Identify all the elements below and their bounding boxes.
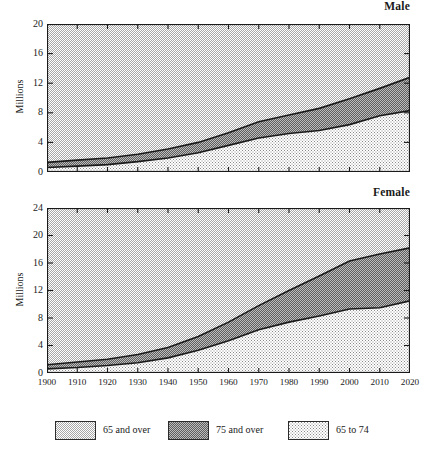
legend-swatch <box>168 421 209 440</box>
x-tick-label: 2010 <box>364 377 396 387</box>
legend-label: 75 and over <box>216 424 263 435</box>
y-tick-label: 4 <box>13 339 43 350</box>
chart-title-female: Female <box>373 186 410 198</box>
x-tick-label: 1960 <box>213 377 245 387</box>
y-axis-label-male: Millions <box>14 57 25 137</box>
chart-panel-male: Male Millions 048121620 <box>0 0 424 190</box>
y-tick-label: 8 <box>13 312 43 323</box>
chart-svg-male <box>47 24 410 172</box>
y-tick-label: 12 <box>13 77 43 88</box>
y-tick-label: 20 <box>13 18 43 29</box>
y-tick-label: 0 <box>13 166 43 177</box>
legend-label: 65 to 74 <box>336 424 369 435</box>
y-tick-label: 8 <box>13 106 43 117</box>
y-tick-label: 20 <box>13 229 43 240</box>
x-tick-label: 1920 <box>92 377 124 387</box>
x-tick-label: 1910 <box>61 377 93 387</box>
chart-title-male: Male <box>384 0 410 12</box>
y-tick-label: 24 <box>13 202 43 213</box>
y-tick-label: 4 <box>13 136 43 147</box>
x-tick-label: 1940 <box>152 377 184 387</box>
legend-label: 65 and over <box>103 424 150 435</box>
y-tick-label: 16 <box>13 257 43 268</box>
x-tick-label: 1980 <box>273 377 305 387</box>
chart-legend: 65 and over75 and over65 to 74 <box>0 409 424 459</box>
y-tick-label: 16 <box>13 47 43 58</box>
y-tick-label: 0 <box>13 367 43 378</box>
plot-area-female <box>47 208 410 373</box>
chart-panel-female: Female Millions 048121620241900191019201… <box>0 186 424 401</box>
plot-area-male <box>47 24 410 172</box>
x-tick-label: 1930 <box>122 377 154 387</box>
legend-swatch <box>55 421 96 440</box>
x-tick-label: 1970 <box>243 377 275 387</box>
x-tick-label: 2000 <box>334 377 366 387</box>
chart-svg-female <box>47 208 410 373</box>
y-tick-label: 12 <box>13 284 43 295</box>
x-tick-label: 1900 <box>31 377 63 387</box>
legend-swatch <box>288 421 329 440</box>
x-tick-label: 2020 <box>394 377 424 387</box>
x-tick-label: 1950 <box>182 377 214 387</box>
x-tick-label: 1990 <box>303 377 335 387</box>
